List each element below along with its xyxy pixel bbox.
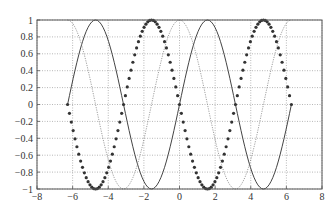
star-marker <box>269 26 272 29</box>
star-marker <box>249 40 252 43</box>
star-marker <box>129 69 132 72</box>
star-marker <box>197 176 200 179</box>
star-marker <box>174 85 177 88</box>
star-marker <box>70 120 73 123</box>
star-marker <box>122 103 125 106</box>
star-marker <box>101 180 104 183</box>
star-marker <box>169 61 172 64</box>
star-marker <box>254 26 257 29</box>
star-marker <box>124 94 127 97</box>
x-tick-label: 0 <box>177 191 182 202</box>
star-marker <box>223 153 226 156</box>
star-marker <box>243 61 246 64</box>
star-marker <box>68 112 71 115</box>
y-tick-label: −1 <box>22 184 33 195</box>
star-marker <box>141 30 144 33</box>
star-marker <box>279 53 282 56</box>
star-marker <box>195 171 198 174</box>
x-tick-label: 4 <box>248 191 253 202</box>
y-tick-label: 0.4 <box>21 65 34 76</box>
star-marker <box>133 53 136 56</box>
star-marker <box>156 23 159 26</box>
star-marker <box>139 35 142 38</box>
star-marker <box>273 35 276 38</box>
star-marker <box>245 53 248 56</box>
star-marker <box>109 159 112 162</box>
star-marker <box>113 145 116 148</box>
star-marker <box>187 145 190 148</box>
star-marker <box>213 180 216 183</box>
star-marker <box>185 137 188 140</box>
star-marker <box>238 85 241 88</box>
star-marker <box>167 53 170 56</box>
star-marker <box>236 94 239 97</box>
star-marker <box>225 145 228 148</box>
star-marker <box>232 112 235 115</box>
star-marker <box>217 171 220 174</box>
star-marker <box>85 176 88 179</box>
star-marker <box>100 183 103 186</box>
star-marker <box>219 166 222 169</box>
x-tick-label: −8 <box>32 191 43 202</box>
star-marker <box>290 103 293 106</box>
star-marker <box>172 77 175 80</box>
star-marker <box>275 40 278 43</box>
star-marker <box>66 103 69 106</box>
star-marker <box>131 61 134 64</box>
y-tick-label: 1 <box>28 15 33 26</box>
star-marker <box>247 46 250 49</box>
x-tick-label: −4 <box>103 191 114 202</box>
star-marker <box>226 137 229 140</box>
star-marker <box>234 103 237 106</box>
star-marker <box>176 94 179 97</box>
star-marker <box>79 159 82 162</box>
star-marker <box>241 69 244 72</box>
star-marker <box>189 153 192 156</box>
x-axis-ticks: −8−6−4−202468 <box>32 186 325 202</box>
star-marker <box>286 85 289 88</box>
star-marker <box>105 171 108 174</box>
star-marker <box>75 145 78 148</box>
star-marker <box>191 159 194 162</box>
star-marker <box>114 137 117 140</box>
chart-container: −8−6−4−202468 10.80.60.40.20−0.2−0.4−0.6… <box>0 0 336 219</box>
y-tick-label: −0.2 <box>15 116 33 127</box>
star-marker <box>211 183 214 186</box>
star-marker <box>87 180 90 183</box>
star-marker <box>111 153 114 156</box>
line-chart: −8−6−4−202468 10.80.60.40.20−0.2−0.4−0.6… <box>0 0 336 219</box>
star-marker <box>170 69 173 72</box>
star-marker <box>126 85 129 88</box>
star-marker <box>230 120 233 123</box>
x-tick-label: 8 <box>320 191 325 202</box>
star-marker <box>137 40 140 43</box>
y-tick-label: 0 <box>28 99 33 110</box>
star-marker <box>180 112 183 115</box>
star-marker <box>142 26 145 29</box>
star-marker <box>161 35 164 38</box>
x-tick-label: 6 <box>284 191 289 202</box>
star-marker <box>251 35 254 38</box>
star-marker <box>83 171 86 174</box>
star-marker <box>284 77 287 80</box>
star-marker <box>135 46 138 49</box>
star-marker <box>198 180 201 183</box>
star-marker <box>116 129 119 132</box>
star-marker <box>271 30 274 33</box>
x-tick-label: −6 <box>67 191 78 202</box>
star-marker <box>157 26 160 29</box>
y-tick-label: 0.8 <box>21 31 34 42</box>
star-marker <box>77 153 80 156</box>
star-marker <box>159 30 162 33</box>
star-marker <box>239 77 242 80</box>
y-tick-label: 0.6 <box>21 48 34 59</box>
y-tick-label: 0.2 <box>21 82 34 93</box>
star-marker <box>282 69 285 72</box>
star-marker <box>228 129 231 132</box>
x-tick-label: −2 <box>139 191 150 202</box>
star-marker <box>120 112 123 115</box>
star-marker <box>128 77 131 80</box>
star-marker <box>73 137 76 140</box>
y-tick-label: −0.6 <box>15 150 33 161</box>
star-marker <box>253 30 256 33</box>
